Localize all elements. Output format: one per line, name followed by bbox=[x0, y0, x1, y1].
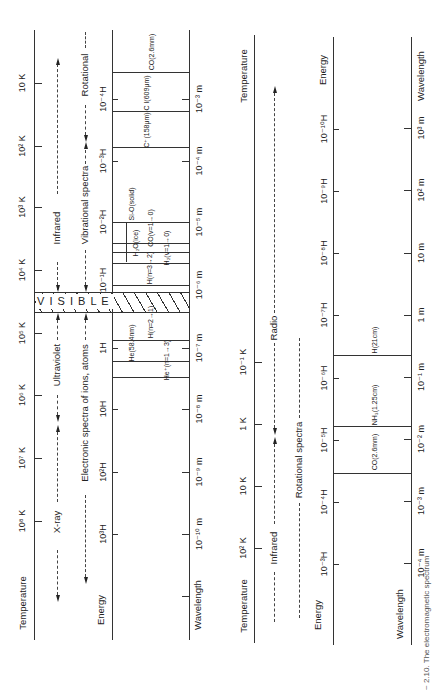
tick-label: 10⁻¹ K bbox=[239, 349, 248, 376]
temperature-axis-line bbox=[254, 35, 255, 643]
tick-label: 10⁻⁴ m bbox=[195, 147, 204, 176]
tick-label: 10⁷ K bbox=[18, 447, 27, 469]
tick-label: 10⁻²H bbox=[99, 210, 108, 235]
tick-label: 10⁻⁴H bbox=[99, 86, 108, 111]
arrow-up-icon bbox=[56, 313, 60, 320]
line-label-h2o-ice: H₂O(ice) bbox=[132, 230, 139, 257]
wavelength-axis-line bbox=[189, 30, 190, 640]
vibrational-range-line-lower bbox=[85, 250, 86, 285]
wavelength-axis-line bbox=[411, 37, 412, 645]
arrow-down-icon bbox=[56, 595, 60, 602]
tick-label: 10⁶ K bbox=[18, 384, 27, 406]
temperature-axis-label-top: Temperature bbox=[239, 49, 249, 102]
temperature-axis-line bbox=[34, 30, 35, 640]
ultraviolet-range-line bbox=[57, 320, 58, 340]
tick-label: 10² m bbox=[417, 178, 426, 201]
energy-axis-label-bottom: Energy bbox=[313, 600, 323, 630]
rotational-range-line bbox=[85, 32, 86, 48]
rotational-range-line-lower bbox=[299, 503, 300, 618]
tick-label: 10⁻⁶ m bbox=[195, 271, 204, 300]
infrared-range-line-lower bbox=[274, 572, 275, 622]
band-label-radio: Radio bbox=[269, 316, 279, 341]
tick-label: 10⁻³ m bbox=[417, 487, 426, 515]
arrow-down-icon bbox=[84, 577, 88, 584]
tick-label: 10⁻⁶H bbox=[320, 365, 329, 390]
tick-label: 10 K bbox=[239, 477, 248, 496]
arrow-down-icon bbox=[84, 285, 88, 292]
band-label-infrared: Infrared bbox=[269, 532, 279, 565]
tick-label: 10⁻⁷H bbox=[320, 303, 329, 328]
spectra-label-rotational: Rotational bbox=[80, 54, 90, 97]
arrow-down-icon bbox=[56, 285, 60, 292]
tick-label: 10⁻⁴H bbox=[320, 489, 329, 514]
line-label-ci-609um: C I(609μm) bbox=[143, 75, 150, 110]
tick-label: 10⁻¹H bbox=[99, 268, 108, 293]
line-label-si-o-solid: Si-O(solid) bbox=[128, 187, 135, 220]
wavelength-axis-label-bottom: Wavelength bbox=[395, 589, 405, 639]
arrow-up-icon bbox=[273, 437, 277, 444]
wavelength-axis-label: Wavelength bbox=[193, 580, 203, 630]
radio-range-line bbox=[274, 93, 275, 313]
tick-label: 10⁻¹⁰H bbox=[320, 115, 329, 144]
energy-axis-label: Energy bbox=[96, 595, 106, 625]
tick-label: 10⁻⁷ m bbox=[195, 334, 204, 362]
line-label-co-2.6mm: CO(2.6mm) bbox=[148, 34, 155, 71]
tick-label: 10⁸ K bbox=[18, 510, 27, 532]
tick-label: 10⁻⁹ m bbox=[195, 458, 204, 487]
tick-label: 10³H bbox=[99, 524, 108, 544]
band-label-xray: X-ray bbox=[52, 511, 62, 534]
xray-range-line-lower bbox=[57, 550, 58, 595]
line-label-he-58.4nm: He(58.4nm) bbox=[128, 325, 135, 362]
arrow-down-icon bbox=[273, 428, 277, 435]
tick-label: 10 K bbox=[18, 74, 27, 93]
arrow-up-icon bbox=[56, 425, 60, 432]
tick-label: 10⁻⁸ m bbox=[195, 395, 204, 424]
line-label-co-2.6mm: CO(2.6mm) bbox=[371, 434, 378, 471]
tick-label: 10⁻³H bbox=[99, 149, 108, 174]
infrared-range-line bbox=[57, 64, 58, 194]
tick-label: 10⁻² m bbox=[417, 425, 426, 453]
visible-band-label: V I S I B L E bbox=[37, 295, 110, 307]
tick-label: 10⁵ K bbox=[18, 322, 27, 344]
tick-label: 10² K bbox=[239, 537, 248, 559]
radio-range-line-lower bbox=[274, 343, 275, 428]
spectra-label-electronic: Electronic spectra of ions, atoms bbox=[80, 344, 90, 481]
tick-label: 10⁻³H bbox=[320, 552, 329, 577]
tick-label: 10³ K bbox=[18, 196, 27, 218]
energy-axis-label-top: Energy bbox=[318, 55, 328, 85]
electronic-range-line bbox=[85, 320, 86, 340]
arrow-up-icon bbox=[84, 313, 88, 320]
arrow-down-icon bbox=[84, 135, 88, 142]
band-label-ultraviolet: Ultraviolet bbox=[52, 344, 62, 386]
arrow-up-icon bbox=[56, 58, 60, 65]
band-label-infrared: Infrared bbox=[52, 212, 62, 245]
tick-label: 10⁻¹⁰ m bbox=[195, 518, 204, 550]
line-label-h2-v1-0: H₂(v=1→0) bbox=[163, 231, 170, 266]
rotational-range-line bbox=[299, 338, 300, 418]
line-label-h-n3-2: H(n=3→2) bbox=[146, 252, 153, 284]
tick-label: 10³ m bbox=[417, 116, 426, 139]
wavelength-axis-label-top: Wavelength bbox=[416, 51, 426, 101]
spectra-label-rotational: Rotational spectra bbox=[294, 422, 304, 499]
energy-axis-line bbox=[112, 30, 113, 640]
tick-label: 1 K bbox=[239, 417, 248, 431]
tick-label: 1H bbox=[99, 342, 108, 354]
line-label-h-21cm: H(21cm) bbox=[371, 327, 378, 354]
ultraviolet-range-line-lower bbox=[57, 395, 58, 415]
tick-label: 10⁻⁵H bbox=[320, 427, 329, 452]
arrow-up-icon bbox=[273, 86, 277, 93]
rotational-range-line-lower bbox=[85, 105, 86, 135]
figure-caption: ~ 2.10. The electromagnetic spectrum bbox=[422, 556, 431, 690]
vibrational-range-line bbox=[85, 150, 86, 164]
spectra-label-vibrational: Vibrational spectra bbox=[80, 166, 90, 245]
tick-label: 10⁻¹ m bbox=[417, 363, 426, 391]
tick-label: 10⁻⁵ m bbox=[195, 208, 204, 237]
arrow-up-icon bbox=[84, 142, 88, 149]
tick-label: 10²H bbox=[99, 462, 108, 482]
electronic-range-line-lower bbox=[85, 495, 86, 577]
xray-range-line bbox=[57, 432, 58, 502]
tick-label: 10H bbox=[99, 401, 108, 418]
line-label-cplus-158um: C⁺(158μm) bbox=[143, 112, 150, 147]
tick-label: 10⁻⁸H bbox=[320, 240, 329, 265]
temperature-axis-label-bottom: Temperature bbox=[239, 579, 249, 632]
